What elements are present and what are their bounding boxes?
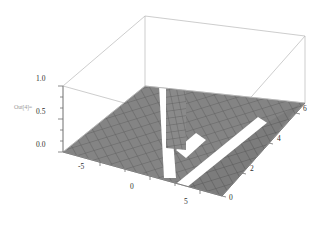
y-tick-label-6: 6 — [303, 104, 307, 113]
surface-wall-riser — [166, 40, 186, 150]
y-tick-label-4: 4 — [277, 134, 281, 143]
output-cell-label: Out[4]= — [14, 104, 32, 110]
y-tick-label-0: 0 — [229, 193, 233, 202]
z-tick-label-3: 0.0 — [36, 140, 45, 149]
surface-mesh — [63, 40, 305, 213]
surface-plot-3d — [0, 0, 321, 226]
z-axis — [58, 86, 63, 152]
surface-wall-cap — [166, 40, 196, 48]
z-tick-label-2: 0.5 — [36, 107, 45, 116]
x-tick-label-3: 5 — [184, 197, 188, 206]
surface-ledge-right — [212, 73, 296, 96]
plot-output-cell: Out[4]= 1.0 0.5 0.0 -5 0 5 6 4 2 0 — [0, 0, 321, 226]
x-tick-label-2: 0 — [130, 182, 134, 191]
y-tick-label-2: 2 — [250, 164, 254, 173]
x-tick-label-1: -5 — [78, 162, 84, 171]
z-tick-label-1: 1.0 — [36, 74, 45, 83]
